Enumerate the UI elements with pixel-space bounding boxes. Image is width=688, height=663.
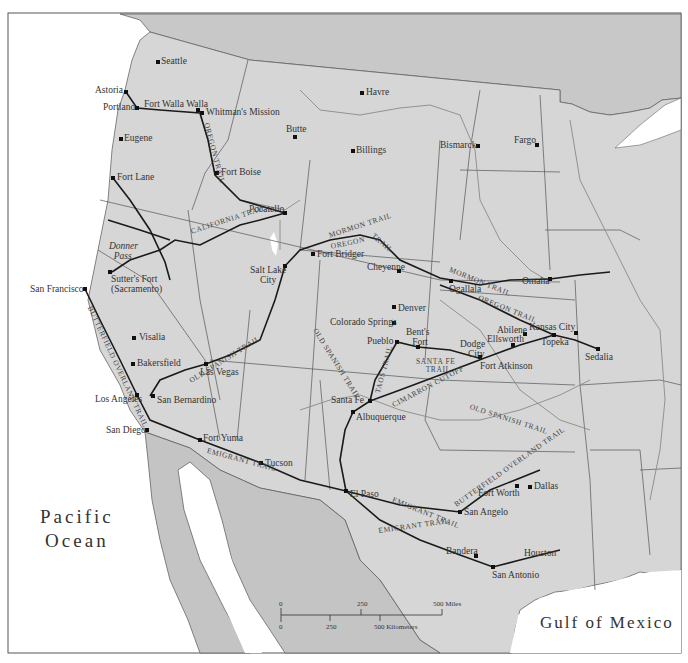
city-dot: [132, 336, 136, 340]
label-bents-fort: Bent's Fort: [406, 328, 429, 347]
scale-km-500: 500 Kilometers: [374, 624, 417, 631]
label-havre: Havre: [366, 88, 389, 98]
label-eugene: Eugene: [124, 134, 153, 144]
label-billings: Billings: [356, 146, 386, 156]
label-ogallala: Ogallala: [449, 285, 481, 295]
label-sutters-fort: Sutter's Fort(Sacramento): [111, 275, 162, 294]
scale-km-0: 0: [279, 624, 283, 631]
gulf-of-mexico-label: Gulf of Mexico: [540, 612, 674, 633]
scale-km-250: 250: [326, 624, 337, 631]
city-dot: [344, 489, 348, 493]
city-dot: [200, 111, 204, 115]
city-dot: [111, 176, 115, 180]
label-bakersfield: Bakersfield: [137, 359, 181, 369]
label-san-bernardino: San Bernardino: [157, 396, 216, 406]
pacific-line-2: Ocean: [40, 529, 114, 553]
label-albuquerque: Albuquerque: [356, 413, 406, 423]
label-kansas-city: Kansas City: [529, 323, 575, 333]
label-bismarck: Bismarck: [440, 141, 476, 151]
label-dodge-city: Dodge City: [460, 340, 485, 359]
label-bandera: Bandera: [446, 547, 478, 557]
label-omaha: Omaha: [522, 277, 549, 287]
label-el-paso: El Paso: [350, 490, 379, 500]
label-san-diego: San Diego: [106, 426, 146, 436]
scale-miles-250: 250: [357, 601, 368, 608]
label-san-francisco: San Francisco: [30, 285, 84, 295]
label-colorado-springs: Colorado Springs: [330, 318, 397, 328]
label-denver: Denver: [398, 304, 426, 314]
pacific-line-1: Pacific: [40, 505, 114, 529]
city-dot: [596, 347, 600, 351]
city-dot: [293, 135, 297, 139]
label-fort-boise: Fort Boise: [221, 168, 261, 178]
label-fort-yuma: Fort Yuma: [203, 434, 243, 444]
label-fort-lane: Fort Lane: [117, 173, 154, 183]
city-dot: [395, 340, 399, 344]
city-dot: [311, 252, 315, 256]
city-dot: [491, 565, 495, 569]
city-dot: [198, 438, 202, 442]
city-dot: [131, 362, 135, 366]
label-donner-pass: Donner Pass: [109, 242, 138, 261]
label-portland: Portland: [103, 103, 135, 113]
city-dot: [449, 279, 453, 283]
city-dot: [135, 106, 139, 110]
city-dot: [124, 90, 128, 94]
label-astoria: Astoria: [95, 86, 123, 96]
label-sedalia: Sedalia: [585, 353, 613, 363]
label-ellsworth: Ellsworth: [487, 335, 524, 345]
label-houston: Houston: [524, 549, 556, 559]
city-dot: [351, 149, 355, 153]
scale-miles-0: 0: [279, 601, 283, 608]
city-dot: [351, 410, 355, 414]
city-dot: [528, 485, 532, 489]
label-fort-walla-walla: Fort Walla Walla: [144, 100, 208, 110]
label-fort-bridger: Fort Bridger: [317, 250, 364, 260]
label-san-antonio: San Antonio: [492, 571, 539, 581]
city-dot: [476, 144, 480, 148]
city-dot: [151, 394, 155, 398]
label-cheyenne: Cheyenne: [367, 263, 405, 273]
label-san-angelo: San Angelo: [464, 508, 508, 518]
label-fort-worth: Fort Worth: [478, 489, 520, 499]
city-dot: [392, 305, 396, 309]
label-visalia: Visalia: [139, 333, 165, 343]
label-salt-lake-city: Salt LakeCity: [250, 266, 286, 285]
label-fort-atkinson: Fort Atkinson: [480, 362, 533, 372]
label-topeka: Topeka: [541, 338, 569, 348]
city-dot: [156, 60, 160, 64]
label-butte: Butte: [286, 125, 307, 135]
city-dot: [368, 399, 372, 403]
scale-miles-500: 500 Miles: [433, 601, 461, 608]
label-fargo: Fargo: [514, 136, 536, 146]
pacific-ocean-label: Pacific Ocean: [40, 505, 114, 553]
label-dallas: Dallas: [534, 482, 558, 492]
label-whitmans-mission: Whitman's Mission: [206, 108, 280, 118]
city-dot: [119, 137, 123, 141]
label-seattle: Seattle: [161, 57, 187, 67]
city-dot: [458, 510, 462, 514]
city-dot: [360, 91, 364, 95]
